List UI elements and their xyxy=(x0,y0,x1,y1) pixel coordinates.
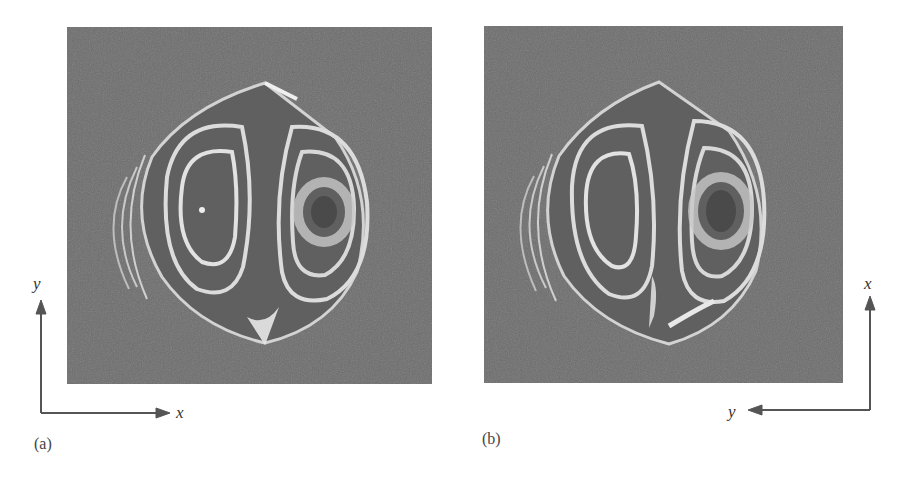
axis-label-horizontal-b: y xyxy=(728,403,736,420)
fringe-pattern-b xyxy=(484,26,843,383)
fringe-image-b xyxy=(484,26,843,383)
panel-label-a: (a) xyxy=(34,436,52,452)
fringe-image-a xyxy=(67,27,432,384)
fringe-pattern-a xyxy=(67,27,432,384)
axis-label-vertical-a: y xyxy=(33,275,41,292)
axis-label-vertical-b: x xyxy=(864,275,872,292)
panel-label-b: (b) xyxy=(482,431,501,447)
axis-label-horizontal-a: x xyxy=(176,404,184,421)
